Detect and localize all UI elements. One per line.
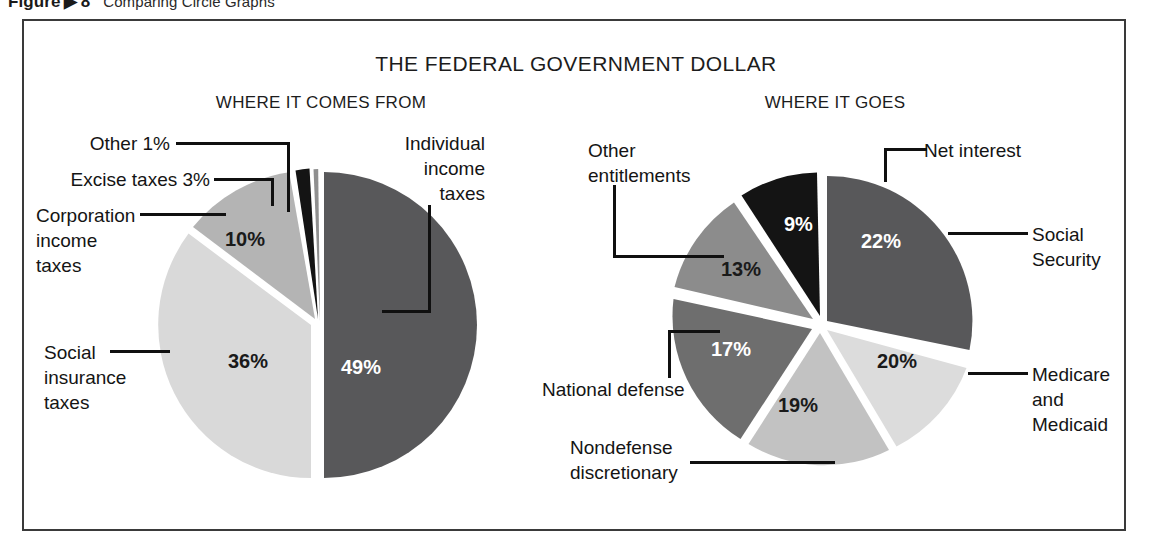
slice-social-security: [827, 176, 972, 350]
chart-title: THE FEDERAL GOVERNMENT DOLLAR: [0, 52, 1152, 76]
leader-corporation-horizontal: [140, 213, 226, 216]
right-pie-svg: [665, 168, 975, 478]
leader-national-defense-vertical: [668, 330, 671, 378]
leader-nondefense-horizontal: [690, 461, 835, 464]
leader-excise-horizontal: [214, 178, 274, 181]
slice-individual-income-taxes: [324, 172, 477, 478]
right-chart-subtitle: WHERE IT GOES: [620, 93, 1050, 113]
left-pie-chart: 49% 36% 10%: [155, 160, 485, 490]
leader-net-interest-horizontal: [884, 148, 927, 151]
leader-individual-horizontal: [382, 310, 431, 313]
figure-caption: Figure▶8Comparing Circle Graphs: [8, 0, 275, 13]
left-pct-social-insurance: 36%: [228, 350, 268, 373]
leader-social-insurance-horizontal: [110, 350, 170, 353]
right-pct-net-interest: 9%: [784, 213, 813, 236]
caption-number: 8: [81, 0, 91, 11]
right-label-nondefense: Nondefense discretionary: [570, 435, 760, 485]
left-label-other: Other 1%: [40, 131, 170, 156]
left-label-excise: Excise taxes 3%: [14, 167, 210, 192]
caption-text: Comparing Circle Graphs: [103, 0, 275, 10]
right-label-net-interest: Net interest: [924, 138, 1104, 163]
right-pct-nondefense: 19%: [778, 394, 818, 417]
leader-other-vertical: [287, 142, 290, 212]
left-chart-subtitle: WHERE IT COMES FROM: [106, 93, 536, 113]
leader-national-defense-horizontal: [668, 330, 720, 333]
left-pct-individual: 49%: [341, 356, 381, 379]
right-pie-chart: 22% 20% 19% 17% 13% 9%: [665, 168, 975, 478]
caption-figure-word: Figure: [8, 0, 61, 11]
right-pct-social-security: 22%: [861, 230, 901, 253]
leader-excise-vertical: [271, 178, 274, 206]
leader-other-entitlements-horizontal: [613, 255, 724, 258]
leader-individual-vertical: [428, 205, 431, 313]
right-pct-national-defense: 17%: [711, 338, 751, 361]
right-pct-medicare: 20%: [877, 350, 917, 373]
right-pct-other-entitlements: 13%: [721, 258, 761, 281]
leader-net-interest-vertical: [884, 148, 887, 182]
leader-other-horizontal: [176, 142, 290, 145]
leader-medicare-horizontal: [968, 372, 1028, 375]
left-label-individual: Individual income taxes: [375, 131, 485, 206]
left-pie-svg: [155, 160, 485, 490]
right-label-other-entitlements: Other entitlements: [588, 138, 768, 188]
left-pct-corporation: 10%: [225, 228, 265, 251]
right-label-social-security: Social Security: [1032, 222, 1142, 272]
leader-other-entitlements-vertical: [613, 185, 616, 258]
figure-page: Figure▶8Comparing Circle Graphs THE FEDE…: [0, 0, 1152, 557]
leader-social-security-horizontal: [948, 232, 1028, 235]
caption-triangle-icon: ▶: [64, 0, 77, 11]
right-label-national-defense: National defense: [542, 377, 742, 402]
right-label-medicare: Medicare and Medicaid: [1032, 362, 1142, 437]
